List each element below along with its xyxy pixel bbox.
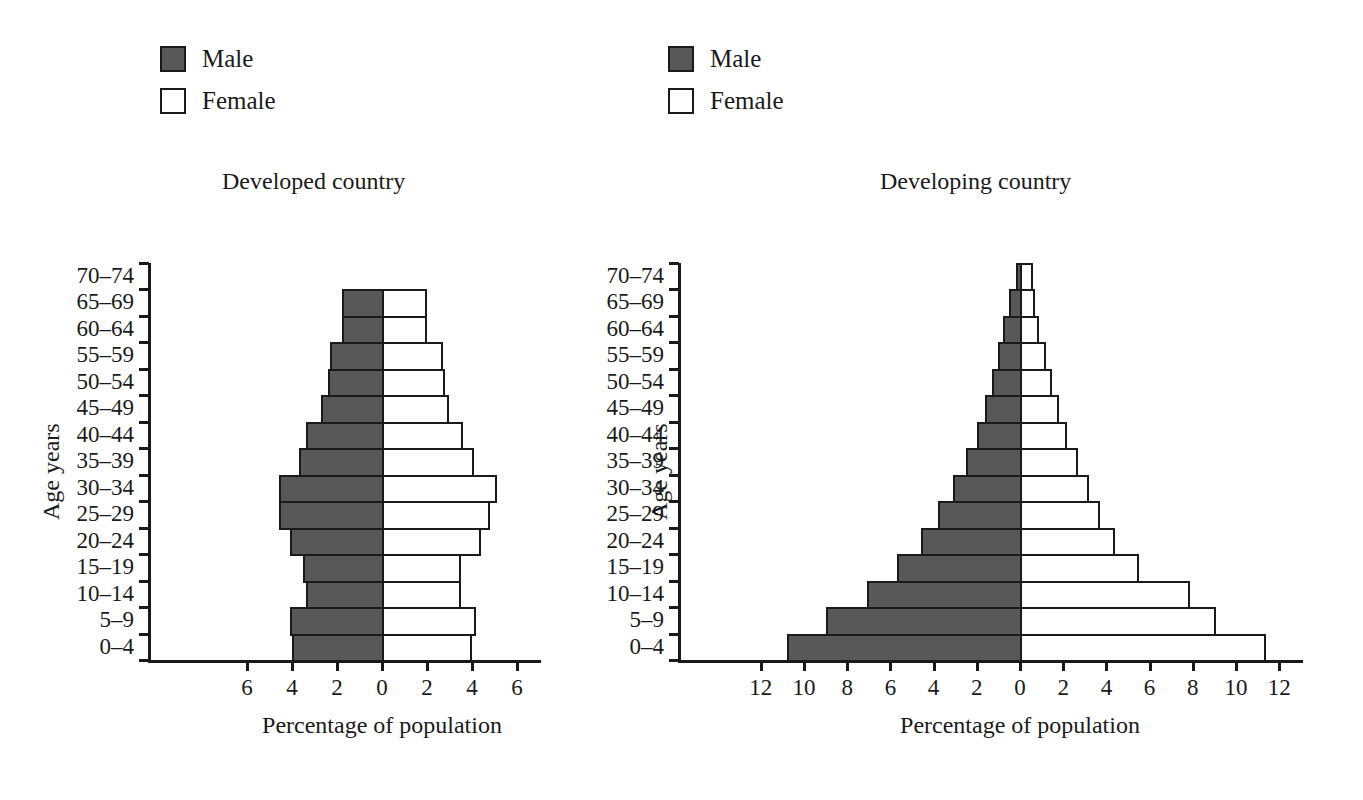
y-axis-band-label: 65–69 — [77, 290, 135, 313]
x-axis-tick-label: 2 — [971, 676, 983, 699]
bar-male-25–29 — [279, 501, 385, 530]
y-axis-band-label: 10–14 — [77, 582, 135, 605]
y-axis-band-label: 45–49 — [607, 396, 665, 419]
bar-female-20–24 — [1020, 528, 1115, 557]
y-axis-band-label: 10–14 — [607, 582, 665, 605]
y-axis-band-label: 0–4 — [100, 635, 135, 658]
y-axis-tick — [669, 500, 679, 503]
bar-male-55–59 — [330, 342, 384, 371]
y-axis-tick — [669, 288, 679, 291]
legend-item-female: Female — [160, 80, 276, 122]
y-axis-band-label: 45–49 — [77, 396, 135, 419]
legend-developed: Male Female — [160, 38, 276, 122]
x-axis-tick-label: 2 — [1057, 676, 1069, 699]
x-axis-tick-label: 6 — [241, 676, 253, 699]
y-axis-band-label: 55–59 — [77, 343, 135, 366]
y-axis-tick — [139, 474, 149, 477]
population-pyramid-figure: Male Female Developed country Age years … — [0, 0, 1363, 800]
x-axis-tick — [846, 660, 849, 671]
bar-female-5–9 — [1020, 607, 1216, 636]
x-axis-tick — [516, 660, 519, 671]
x-axis-tick-label: 10 — [1225, 676, 1248, 699]
y-axis-tick — [139, 421, 149, 424]
bar-male-0–4 — [292, 634, 384, 663]
x-axis-tick — [471, 660, 474, 671]
y-axis-tick — [139, 315, 149, 318]
y-axis-tick — [139, 633, 149, 636]
y-axis-band-label: 30–34 — [607, 476, 665, 499]
x-axis-tick — [933, 660, 936, 671]
bar-female-40–44 — [382, 422, 463, 451]
x-axis-tick — [381, 660, 384, 671]
x-axis-tick — [336, 660, 339, 671]
bar-female-55–59 — [382, 342, 443, 371]
legend-label-male: Male — [202, 46, 253, 72]
x-axis-tick-label: 4 — [928, 676, 940, 699]
bar-male-55–59 — [998, 342, 1022, 371]
plot-area-developed: 0–45–910–1415–1920–2425–2930–3435–3940–4… — [148, 255, 660, 667]
y-axis-band-label: 50–54 — [607, 370, 665, 393]
y-axis-band-label: 70–74 — [607, 264, 665, 287]
x-axis-caption: Percentage of population — [900, 712, 1140, 739]
y-axis-tick — [669, 633, 679, 636]
bar-female-70–74 — [1020, 263, 1033, 292]
y-axis-tick — [669, 421, 679, 424]
y-axis-tick — [139, 553, 149, 556]
legend-item-female: Female — [668, 80, 784, 122]
x-axis-tick — [1192, 660, 1195, 671]
legend-item-male: Male — [668, 38, 784, 80]
y-axis-tick — [139, 606, 149, 609]
bar-female-0–4 — [382, 634, 472, 663]
y-axis-band-label: 55–59 — [607, 343, 665, 366]
x-axis-tick-label: 10 — [793, 676, 816, 699]
bar-female-45–49 — [382, 395, 449, 424]
y-axis-tick — [139, 500, 149, 503]
x-axis-tick-label: 0 — [1014, 676, 1026, 699]
y-axis-tick — [139, 394, 149, 397]
y-axis-band-label: 60–64 — [77, 317, 135, 340]
bar-male-50–54 — [992, 369, 1022, 398]
bar-female-60–64 — [1020, 316, 1039, 345]
bar-male-40–44 — [977, 422, 1022, 451]
legend-label-female: Female — [710, 88, 784, 114]
bar-female-25–29 — [1020, 501, 1100, 530]
x-axis-tick — [976, 660, 979, 671]
x-axis-tick-label: 4 — [1101, 676, 1113, 699]
y-axis-band-label: 15–19 — [607, 555, 665, 578]
bar-female-15–19 — [1020, 554, 1139, 583]
x-axis-line: 12108642024681012 — [678, 660, 1303, 663]
y-axis-band-label: 60–64 — [607, 317, 665, 340]
bar-male-60–64 — [342, 316, 385, 345]
x-axis-tick — [760, 660, 763, 671]
x-axis-tick — [1062, 660, 1065, 671]
y-axis-band-label: 5–9 — [630, 608, 665, 631]
y-axis-band-label: 25–29 — [77, 502, 135, 525]
y-axis-band-label: 30–34 — [77, 476, 135, 499]
x-axis-tick-label: 0 — [376, 676, 388, 699]
bar-female-0–4 — [1020, 634, 1266, 663]
y-axis-band-label: 20–24 — [607, 529, 665, 552]
bar-male-20–24 — [290, 528, 384, 557]
y-axis-tick — [669, 527, 679, 530]
y-axis-band-label: 50–54 — [77, 370, 135, 393]
y-axis-tick — [139, 447, 149, 450]
bar-male-30–34 — [279, 475, 385, 504]
x-axis-tick — [1019, 660, 1022, 671]
x-axis-tick-label: 4 — [286, 676, 298, 699]
legend-developing: Male Female — [668, 38, 784, 122]
y-axis-spine: 0–45–910–1415–1920–2425–2930–3435–3940–4… — [678, 263, 681, 661]
x-axis-tick-label: 2 — [421, 676, 433, 699]
legend-label-female: Female — [202, 88, 276, 114]
legend-swatch-female-icon — [160, 88, 186, 114]
y-axis-tick — [669, 553, 679, 556]
bar-female-30–34 — [1020, 475, 1089, 504]
bar-male-15–19 — [303, 554, 384, 583]
x-axis-tick-label: 12 — [749, 676, 772, 699]
chart-panel-developed: Male Female Developed country Age years … — [0, 0, 660, 800]
y-axis-tick — [139, 580, 149, 583]
bar-male-40–44 — [306, 422, 385, 451]
x-axis-tick — [1235, 660, 1238, 671]
x-axis-tick — [1278, 660, 1281, 671]
bar-female-15–19 — [382, 554, 461, 583]
x-axis-tick-label: 8 — [841, 676, 853, 699]
